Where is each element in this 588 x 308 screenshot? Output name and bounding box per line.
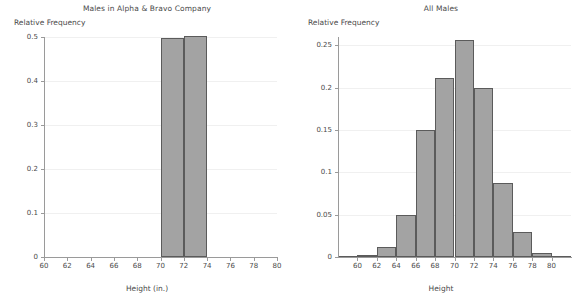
x-axis-tick-label: 80: [273, 262, 282, 270]
x-axis-tick-label: 72: [179, 262, 188, 270]
histogram-bar: [184, 36, 207, 257]
chart-title-left: Males in Alpha & Bravo Company: [0, 4, 294, 13]
x-axis-tick: [493, 258, 494, 261]
y-axis-tick-label: 0.4: [27, 77, 38, 85]
x-axis-label-left: Height (in.): [0, 284, 294, 293]
y-axis-tick: [41, 81, 44, 82]
x-axis-tick: [230, 258, 231, 261]
y-axis-tick: [335, 45, 338, 46]
y-axis-tick-label: 0.1: [321, 168, 332, 176]
x-axis-tick: [114, 258, 115, 261]
x-axis-tick-label: 74: [203, 262, 212, 270]
x-axis-tick-label: 64: [392, 262, 401, 270]
plot-area-left: 00.10.20.30.40.56062646668707274767880: [44, 37, 277, 257]
x-axis-tick-label: 66: [109, 262, 118, 270]
x-axis-tick-label: 80: [547, 262, 556, 270]
y-axis-tick: [335, 215, 338, 216]
histogram-figure: Males in Alpha & Bravo Company Relative …: [0, 0, 588, 308]
y-axis-tick-label: 0.25: [316, 41, 332, 49]
histogram-bar: [377, 247, 396, 257]
y-axis-tick: [335, 257, 338, 258]
x-axis-tick: [277, 258, 278, 261]
y-axis-tick-label: 0.05: [316, 211, 332, 219]
x-axis-tick-label: 76: [226, 262, 235, 270]
y-axis-tick-label: 0.1: [27, 209, 38, 217]
x-axis-tick-label: 78: [249, 262, 258, 270]
x-axis-tick: [435, 258, 436, 261]
x-axis-tick: [532, 258, 533, 261]
x-axis-tick: [455, 258, 456, 261]
chart-title-right: All Males: [294, 4, 588, 13]
x-axis-tick: [416, 258, 417, 261]
histogram-bar: [513, 232, 532, 257]
x-axis-tick-label: 68: [133, 262, 142, 270]
x-axis-tick: [552, 258, 553, 261]
x-axis-tick: [44, 258, 45, 261]
x-axis-tick: [161, 258, 162, 261]
y-axis-tick-label: 0.5: [27, 33, 38, 41]
x-axis-tick-label: 78: [528, 262, 537, 270]
x-axis-tick: [513, 258, 514, 261]
histogram-bar: [396, 215, 415, 257]
x-axis-tick-label: 70: [450, 262, 459, 270]
y-axis-tick: [335, 172, 338, 173]
x-axis-tick-label: 60: [40, 262, 49, 270]
histogram-bar: [493, 183, 512, 257]
histogram-bar: [455, 40, 474, 257]
y-axis-tick: [41, 125, 44, 126]
y-axis-tick-label: 0.3: [27, 121, 38, 129]
y-axis-tick: [41, 37, 44, 38]
x-axis-tick-label: 62: [372, 262, 381, 270]
y-axis-line: [338, 37, 339, 258]
x-axis-tick: [474, 258, 475, 261]
x-axis-tick: [91, 258, 92, 261]
x-axis-tick: [396, 258, 397, 261]
y-axis-tick-label: 0.2: [321, 84, 332, 92]
chart-panel-alpha-bravo: Males in Alpha & Bravo Company Relative …: [0, 0, 294, 308]
x-axis-tick: [377, 258, 378, 261]
x-axis-tick-label: 60: [353, 262, 362, 270]
y-axis-tick: [41, 213, 44, 214]
x-axis-tick-label: 74: [489, 262, 498, 270]
x-axis-tick-label: 72: [469, 262, 478, 270]
x-axis-tick-label: 68: [431, 262, 440, 270]
histogram-bar: [416, 130, 435, 257]
y-axis-tick: [335, 88, 338, 89]
x-axis-tick: [357, 258, 358, 261]
y-axis-line: [44, 37, 45, 258]
x-axis-label-right: Height: [294, 284, 588, 293]
y-axis-label-left: Relative Frequency: [14, 18, 85, 27]
x-axis-tick-label: 64: [86, 262, 95, 270]
y-axis-tick: [335, 130, 338, 131]
histogram-bar: [435, 78, 454, 257]
x-axis-tick-label: 66: [411, 262, 420, 270]
y-axis-tick: [41, 169, 44, 170]
y-axis-tick-label: 0.15: [316, 126, 332, 134]
x-axis-tick-label: 62: [63, 262, 72, 270]
histogram-bar: [161, 38, 184, 257]
x-axis-tick: [207, 258, 208, 261]
x-axis-tick: [67, 258, 68, 261]
x-axis-tick-label: 70: [156, 262, 165, 270]
x-axis-tick: [137, 258, 138, 261]
x-axis-tick: [254, 258, 255, 261]
x-axis-tick-label: 76: [508, 262, 517, 270]
y-axis-tick-label: 0.2: [27, 165, 38, 173]
chart-panel-all-males: All Males Relative Frequency 00.050.10.1…: [294, 0, 588, 308]
histogram-bar: [474, 88, 493, 257]
plot-area-right: 00.050.10.150.20.25606264666870727476788…: [338, 37, 571, 257]
y-axis-tick-label: 0: [34, 253, 38, 261]
y-axis-label-right: Relative Frequency: [308, 18, 379, 27]
y-axis-tick-label: 0: [328, 253, 332, 261]
x-axis-tick: [184, 258, 185, 261]
